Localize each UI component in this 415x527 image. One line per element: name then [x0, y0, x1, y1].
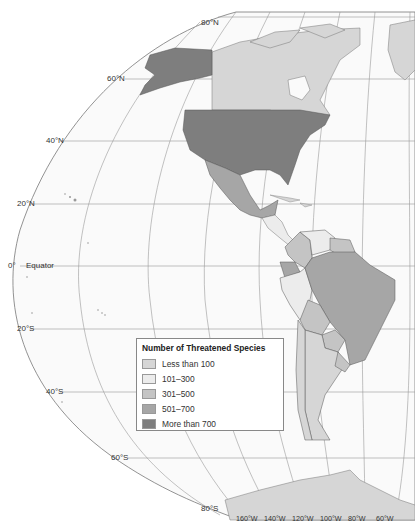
lon-label-160w: 160°W — [236, 514, 264, 523]
legend-label: More than 700 — [162, 419, 216, 429]
lon-label-120w: 120°W — [292, 514, 320, 523]
lat-label-80s: 80°S — [201, 505, 218, 513]
lat-label-40n: 40°N — [46, 137, 64, 145]
legend-item-more-than-700: More than 700 — [142, 416, 278, 431]
lat-label-20s: 20°S — [17, 325, 34, 333]
legend-item-101-300: 101–300 — [142, 371, 278, 386]
lat-label-20n: 20°N — [17, 200, 35, 208]
map-legend: Number of Threatened Species Less than 1… — [136, 338, 284, 431]
legend-swatch — [142, 419, 156, 429]
lon-label-60w: 60°W — [376, 514, 404, 523]
legend-label: 501–700 — [162, 404, 195, 414]
lon-label-100w: 100°W — [320, 514, 348, 523]
lat-label-40s: 40°S — [46, 388, 63, 396]
lat-label-80n: 80°N — [201, 19, 219, 27]
legend-item-less-than-100: Less than 100 — [142, 356, 278, 371]
legend-title: Number of Threatened Species — [142, 343, 278, 353]
equator-label: Equator — [26, 262, 54, 270]
lat-label-0: 0° — [8, 262, 16, 270]
legend-item-301-500: 301–500 — [142, 386, 278, 401]
legend-swatch — [142, 374, 156, 384]
legend-swatch — [142, 359, 156, 369]
legend-swatch — [142, 389, 156, 399]
legend-swatch — [142, 404, 156, 414]
lat-label-60n: 60°N — [107, 75, 125, 83]
legend-item-501-700: 501–700 — [142, 401, 278, 416]
legend-label: 301–500 — [162, 389, 195, 399]
legend-label: Less than 100 — [162, 359, 215, 369]
lat-label-60s: 60°S — [111, 454, 128, 462]
legend-label: 101–300 — [162, 374, 195, 384]
map-canvas — [0, 0, 415, 527]
lon-label-140w: 140°W — [264, 514, 292, 523]
lon-label-80w: 80°W — [348, 514, 376, 523]
longitude-labels: 160°W 140°W 120°W 100°W 80°W 60°W — [236, 514, 404, 523]
